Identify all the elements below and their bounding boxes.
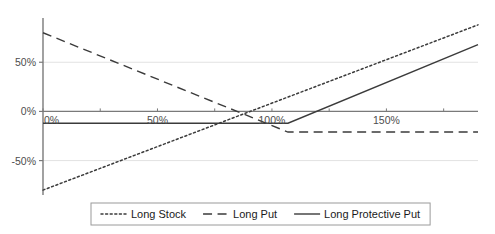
axes bbox=[43, 18, 478, 195]
payoff-chart: 0%50%100%150% 50%0%-50% Long StockLong P… bbox=[0, 0, 495, 234]
y-axis-labels: 50%0%-50% bbox=[11, 56, 36, 166]
y-axis-tick-label: -50% bbox=[11, 155, 36, 167]
legend-label: Long Protective Put bbox=[324, 208, 420, 220]
x-axis-labels: 0%50%100%150% bbox=[44, 114, 400, 126]
payoff-chart-svg: 0%50%100%150% 50%0%-50% Long StockLong P… bbox=[0, 0, 495, 234]
series-lines bbox=[43, 25, 478, 190]
x-axis-tick-label: 150% bbox=[373, 114, 400, 126]
y-axis-tick-label: 50% bbox=[15, 56, 36, 68]
legend-label: Long Stock bbox=[131, 208, 187, 220]
y-axis-tick-label: 0% bbox=[21, 105, 36, 117]
series-line-long-stock bbox=[43, 25, 478, 190]
x-axis-tick-label: 100% bbox=[259, 114, 286, 126]
chart-legend: Long StockLong PutLong Protective Put bbox=[91, 203, 430, 225]
x-axis-tick-label: 0% bbox=[44, 114, 59, 126]
legend-label: Long Put bbox=[233, 208, 277, 220]
x-axis-tick-label: 50% bbox=[147, 114, 168, 126]
